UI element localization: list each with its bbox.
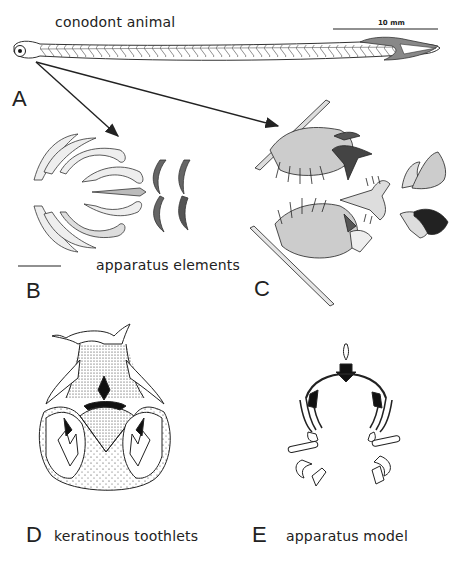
scale-bar-label: 10 mm (378, 19, 405, 27)
panel-letter-c: C (254, 276, 270, 302)
caption-a: conodont animal (55, 14, 175, 30)
figure-illustration (0, 0, 453, 568)
caption-e: apparatus model (286, 528, 408, 544)
conodont-animal-body (14, 37, 440, 60)
apparatus-model (288, 344, 401, 486)
panel-letter-d: D (26, 522, 42, 548)
panel-letter-e: E (252, 522, 267, 548)
caption-d: keratinous toothlets (54, 528, 198, 544)
apparatus-elements-b (34, 134, 190, 252)
caption-b: apparatus elements (96, 257, 240, 273)
keratinous-toothlets-head (39, 324, 170, 490)
apparatus-elements-c (250, 100, 448, 306)
eye-icon (15, 46, 26, 57)
panel-letter-a: A (12, 86, 27, 112)
panel-letter-b: B (26, 278, 41, 304)
